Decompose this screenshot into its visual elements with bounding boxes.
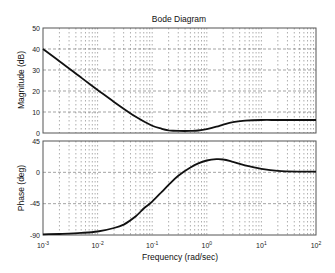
magnitude-y-tick-label: 10 — [32, 109, 40, 116]
magnitude-y-tick-label: 30 — [32, 67, 40, 74]
x-axis-label: Frequency (rad/sec) — [142, 252, 218, 262]
phase-y-tick-label: -90 — [30, 232, 40, 239]
x-tick-label: 10-2 — [91, 240, 103, 250]
phase-series-line — [43, 159, 316, 234]
x-tick-label: 101 — [256, 240, 267, 250]
phase-y-axis-label: Phase (deg) — [16, 165, 26, 211]
x-tick-label: 10-1 — [146, 240, 158, 250]
phase-grid — [43, 141, 316, 235]
bode-diagram: 01020304050 -90-45045 10-310-210-1100101… — [0, 0, 335, 273]
magnitude-y-axis-label: Magnitude (dB) — [16, 51, 26, 109]
phase-y-tick-label: 45 — [32, 138, 40, 145]
phase-axes-frame — [43, 141, 316, 235]
magnitude-y-ticks: 01020304050 — [32, 25, 40, 137]
phase-y-tick-label: 0 — [36, 169, 40, 176]
magnitude-y-tick-label: 0 — [36, 130, 40, 137]
x-tick-label: 102 — [311, 240, 322, 250]
x-tick-label: 100 — [202, 240, 213, 250]
phase-y-tick-label: -45 — [30, 200, 40, 207]
magnitude-series-line — [43, 49, 316, 131]
magnitude-y-tick-label: 40 — [32, 46, 40, 53]
magnitude-y-tick-label: 50 — [32, 25, 40, 32]
x-ticks: 10-310-210-1100101102 — [37, 240, 322, 250]
chart-title: Bode Diagram — [152, 14, 206, 24]
phase-y-ticks: -90-45045 — [30, 138, 40, 239]
magnitude-y-tick-label: 20 — [32, 88, 40, 95]
x-tick-label: 10-3 — [37, 240, 49, 250]
